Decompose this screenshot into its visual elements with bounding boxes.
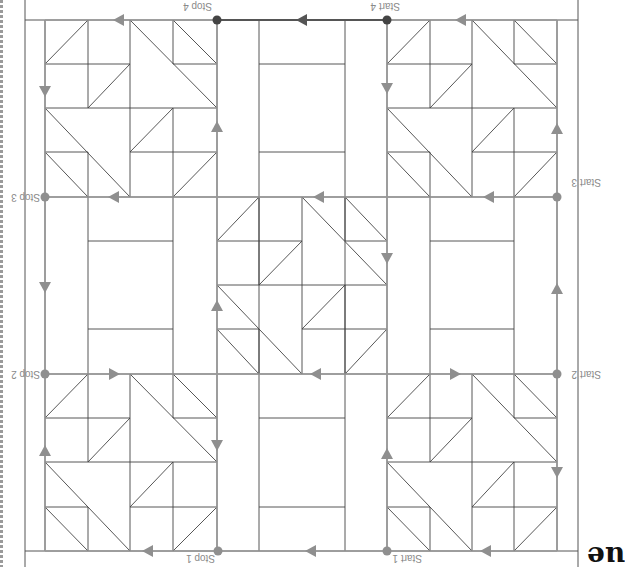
label-start1: Start 1 bbox=[392, 553, 422, 564]
quilting-diagram: Stop 4 Start 4 Stop 3 Start 3 Stop 2 Sta… bbox=[0, 0, 625, 567]
arrow-left-icon bbox=[108, 191, 119, 203]
pinwheel-top-left bbox=[45, 20, 217, 197]
arrow-left-icon bbox=[310, 368, 321, 380]
start3-dot bbox=[553, 193, 562, 202]
start2-dot bbox=[553, 370, 562, 379]
arrow-left-icon bbox=[313, 191, 324, 203]
label-stop4: Stop 4 bbox=[183, 1, 212, 12]
arrow-down-icon bbox=[211, 440, 223, 451]
arrow-up-icon bbox=[39, 445, 51, 456]
start4-dot bbox=[383, 16, 392, 25]
start1-dot bbox=[383, 547, 392, 556]
label-start2: Start 2 bbox=[571, 369, 601, 380]
arrow-up-icon bbox=[211, 300, 223, 311]
arrow-up-icon bbox=[551, 283, 563, 294]
arrow-down-icon bbox=[381, 83, 393, 94]
stop3-dot bbox=[41, 193, 50, 202]
arrow-left-icon bbox=[142, 545, 153, 557]
path-labels: Stop 4 Start 4 Stop 3 Start 3 Stop 2 Sta… bbox=[11, 1, 601, 564]
arrow-right-icon bbox=[450, 368, 461, 380]
pinwheel-bottom-right bbox=[387, 374, 557, 551]
arrow-down-icon bbox=[39, 86, 51, 97]
arrow-down-icon bbox=[39, 282, 51, 293]
arrow-up-icon bbox=[551, 123, 563, 134]
label-start3: Start 3 bbox=[571, 177, 601, 188]
stop4-dot bbox=[213, 16, 222, 25]
pinwheel-bottom-left bbox=[45, 374, 217, 551]
arrow-up-icon bbox=[211, 121, 223, 132]
quilting-paths bbox=[45, 20, 557, 551]
stop2-dot bbox=[41, 370, 50, 379]
arrow-left-icon bbox=[480, 545, 491, 557]
arrow-left-icon bbox=[296, 14, 307, 26]
arrow-down-icon bbox=[381, 253, 393, 264]
block-grid bbox=[45, 20, 557, 551]
label-start4: Start 4 bbox=[370, 1, 400, 12]
arrow-left-icon bbox=[455, 14, 466, 26]
pinwheel-center bbox=[217, 197, 387, 374]
arrow-left-icon bbox=[113, 14, 124, 26]
arrow-down-icon bbox=[551, 467, 563, 478]
arrow-left-icon bbox=[483, 191, 494, 203]
label-stop2: Stop 2 bbox=[11, 369, 40, 380]
label-stop1: Stop 1 bbox=[186, 553, 215, 564]
page-heading-fragment: ue bbox=[587, 540, 625, 567]
arrow-up-icon bbox=[381, 448, 393, 459]
arrow-left-icon bbox=[305, 545, 316, 557]
path-markers bbox=[41, 16, 562, 556]
label-stop3: Stop 3 bbox=[11, 192, 40, 203]
arrow-right-icon bbox=[109, 368, 120, 380]
pinwheel-top-right bbox=[387, 20, 557, 197]
direction-arrows bbox=[39, 14, 563, 557]
